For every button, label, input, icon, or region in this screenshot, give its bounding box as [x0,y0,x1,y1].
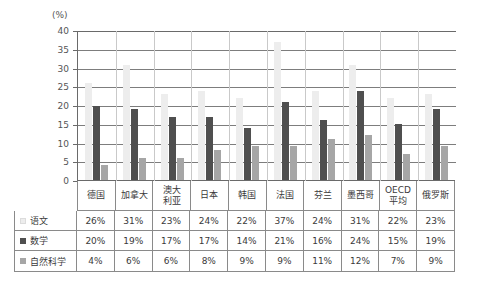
table-cell: 17% [190,231,228,250]
data-table: 语文26%31%23%24%22%37%24%31%22%23%数学20%19%… [14,211,455,272]
category-label-text: 俄罗斯 [422,190,449,200]
bar-数学-法国 [282,102,289,180]
table-cell: 23% [153,211,191,230]
bar-自然科学-德国 [101,165,108,180]
y-tick-40: 40 [58,26,69,36]
bar-自然科学-韩国 [252,146,259,180]
category-label-text: 日本 [200,190,218,200]
table-cell: 6% [115,251,153,271]
bar-自然科学-OECD平均 [403,154,410,180]
table-cell: 24% [342,231,380,250]
tickmark-0 [73,181,77,182]
y-tick-35: 35 [58,45,69,55]
bar-group [78,31,116,180]
bar-group [304,31,342,180]
y-tick-0: 0 [63,176,69,186]
category-label-韩国: 韩国 [229,181,267,210]
tickmark-40 [73,31,77,32]
bar-自然科学-澳大利亚 [177,158,184,180]
bar-语文-德国 [85,83,92,180]
table-cell: 24% [304,211,342,230]
bar-自然科学-加拿大 [139,158,146,180]
table-cell: 21% [266,231,304,250]
bar-数学-OECD平均 [395,124,402,180]
y-tick-25: 25 [58,82,69,92]
bar-数学-日本 [206,117,213,180]
bar-语文-韩国 [236,98,243,180]
table-cell: 6% [153,251,191,271]
bar-语文-澳大利亚 [161,94,168,180]
bar-数学-墨西哥 [357,91,364,180]
chart-figure: (%) 4035302520151050 德国加拿大澳大利亚日本韩国法国芬兰墨西… [0,0,477,283]
table-row: 自然科学4%6%6%8%9%9%11%12%7%9% [15,251,454,271]
table-cell: 9% [417,251,454,271]
table-cell: 16% [304,231,342,250]
series-legend-语文: 语文 [15,211,77,230]
bar-数学-芬兰 [320,120,327,180]
y-axis-tick-labels: 4035302520151050 [49,31,73,181]
table-cell: 31% [115,211,153,230]
table-cell: 19% [417,231,454,250]
category-label-text: 墨西哥 [347,190,374,200]
tickmark-20 [73,106,77,107]
tickmark-10 [73,144,77,145]
category-label-text: 德国 [87,190,105,200]
category-label-OECD平均: OECD平均 [380,181,418,210]
bar-语文-加拿大 [123,65,130,180]
y-tick-30: 30 [58,64,69,74]
bar-group [417,31,455,180]
bar-group [380,31,418,180]
bar-数学-澳大利亚 [169,117,176,180]
category-label-text: OECD平均 [385,185,411,206]
legend-swatch-icon [20,258,26,264]
table-cell: 31% [342,211,380,230]
y-tick-20: 20 [58,101,69,111]
table-cell: 37% [266,211,304,230]
category-label-日本: 日本 [191,181,229,210]
bar-语文-OECD平均 [387,98,394,180]
table-cell: 19% [115,231,153,250]
category-label-澳大利亚: 澳大利亚 [153,181,191,210]
category-label-text: 澳大利亚 [163,185,181,206]
table-cell: 4% [77,251,115,271]
bar-数学-韩国 [244,128,251,180]
category-label-加拿大: 加拿大 [116,181,154,210]
series-legend-数学: 数学 [15,231,77,250]
bar-groups [78,31,455,180]
table-cell: 24% [190,211,228,230]
table-cell: 8% [190,251,228,271]
bar-语文-俄罗斯 [425,94,432,180]
category-label-墨西哥: 墨西哥 [342,181,380,210]
table-cell: 23% [417,211,454,230]
table-cell: 26% [77,211,115,230]
bar-自然科学-俄罗斯 [441,146,448,180]
tickmark-5 [73,162,77,163]
legend-swatch-icon [20,238,26,244]
legend-swatch-icon [20,218,26,224]
bar-自然科学-法国 [290,146,297,180]
bar-语文-法国 [274,42,281,180]
bar-group [267,31,305,180]
bar-数学-加拿大 [131,109,138,180]
tickmark-15 [73,125,77,126]
table-cell: 22% [379,211,417,230]
bar-语文-墨西哥 [349,65,356,180]
y-tick-5: 5 [63,157,69,167]
series-label: 数学 [30,234,48,247]
bar-语文-芬兰 [312,91,319,180]
category-label-text: 加拿大 [121,190,148,200]
category-label-芬兰: 芬兰 [304,181,342,210]
series-label: 语文 [30,214,48,227]
y-tick-10: 10 [58,139,69,149]
table-cell: 11% [304,251,342,271]
category-header-row: 德国加拿大澳大利亚日本韩国法国芬兰墨西哥OECD平均俄罗斯 [77,181,455,211]
table-cell: 15% [379,231,417,250]
series-legend-自然科学: 自然科学 [15,251,77,271]
series-label: 自然科学 [30,255,66,268]
table-row: 数学20%19%17%17%14%21%16%24%15%19% [15,231,454,251]
table-cell: 14% [228,231,266,250]
table-cell: 17% [153,231,191,250]
table-cell: 22% [228,211,266,230]
bar-group [229,31,267,180]
category-label-text: 法国 [276,190,294,200]
